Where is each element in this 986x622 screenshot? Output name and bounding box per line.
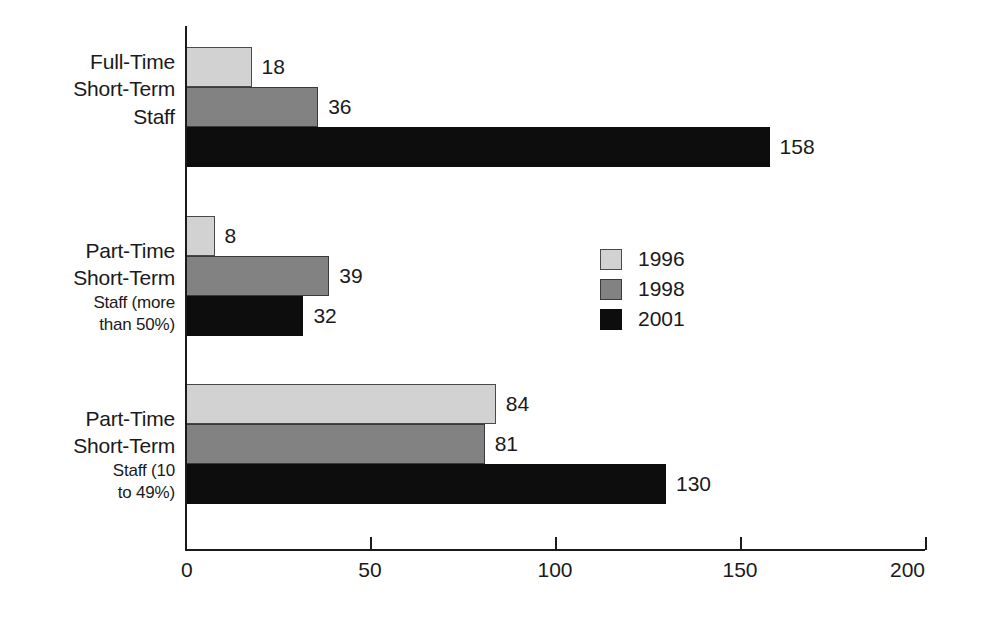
bar-1996-group-3: [185, 384, 496, 424]
bar-value-label: 130: [676, 464, 711, 504]
legend-swatch-1996: [600, 249, 622, 270]
legend-label: 2001: [638, 307, 685, 331]
x-tick-label-0: 0: [181, 558, 193, 582]
bar-value-label: 158: [780, 127, 815, 167]
category-label-line: Staff (more: [73, 292, 175, 314]
x-tick-0: [185, 537, 187, 550]
x-tick-label-50: 50: [358, 558, 381, 582]
category-label-line: Full-Time: [73, 48, 175, 75]
legend: 199619982001: [600, 244, 685, 334]
category-label-line: Part-Time: [73, 237, 175, 264]
bar-1996-group-2: [185, 216, 215, 256]
category-label-line: Staff (10: [73, 460, 175, 482]
bar-value-label: 18: [262, 47, 285, 87]
bar-2001-group-3: [185, 464, 666, 504]
legend-item-2001: 2001: [600, 304, 685, 334]
x-tick-200: [925, 537, 927, 550]
y-axis-line: [185, 26, 187, 551]
category-label-line: to 49%): [73, 482, 175, 504]
x-tick-100: [555, 537, 557, 550]
bar-value-label: 32: [313, 296, 336, 336]
legend-swatch-2001: [600, 309, 622, 330]
bar-value-label: 39: [339, 256, 362, 296]
bar-1998-group-3: [185, 424, 485, 464]
category-label-part-time-short-term-staff-10-to-49: Part-Time Short-Term Staff (10 to 49%): [73, 405, 175, 504]
bar-value-label: 36: [328, 87, 351, 127]
legend-swatch-1998: [600, 279, 622, 300]
category-label-line: than 50%): [73, 314, 175, 336]
plot-area: 1836158839328481130: [185, 20, 925, 545]
category-label-line: Short-Term: [73, 75, 175, 102]
bar-2001-group-2: [185, 296, 303, 336]
category-label-full-time-short-term-staff: Full-Time Short-Term Staff: [73, 48, 175, 130]
category-label-line: Staff: [73, 103, 175, 130]
x-tick-label-150: 150: [722, 558, 757, 582]
category-label-line: Short-Term: [73, 432, 175, 459]
legend-label: 1998: [638, 277, 685, 301]
bar-1996-group-1: [185, 47, 252, 87]
x-tick-50: [370, 537, 372, 550]
legend-label: 1996: [638, 247, 685, 271]
bar-1998-group-1: [185, 87, 318, 127]
bar-value-label: 84: [506, 384, 529, 424]
category-label-line: Short-Term: [73, 264, 175, 291]
x-tick-150: [740, 537, 742, 550]
bar-1998-group-2: [185, 256, 329, 296]
bar-value-label: 8: [225, 216, 237, 256]
bar-chart: Full-Time Short-Term Staff Part-Time Sho…: [0, 0, 986, 622]
bar-value-label: 81: [495, 424, 518, 464]
category-label-line: Part-Time: [73, 405, 175, 432]
legend-item-1996: 1996: [600, 244, 685, 274]
legend-item-1998: 1998: [600, 274, 685, 304]
bar-2001-group-1: [185, 127, 770, 167]
category-label-part-time-short-term-staff-more-than-50: Part-Time Short-Term Staff (more than 50…: [73, 237, 175, 336]
x-tick-label-100: 100: [537, 558, 572, 582]
x-tick-label-200: 200: [890, 558, 925, 582]
